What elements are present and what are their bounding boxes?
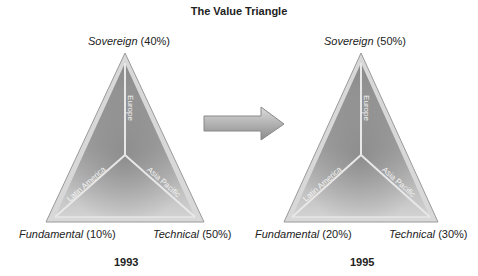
left-vertex-label-1993: Fundamental (10%) <box>19 228 116 240</box>
left-vertex-label-1995: Fundamental (20%) <box>255 228 352 240</box>
right-vertex-label-1993: Technical (50%) <box>153 228 231 240</box>
triangle-1993: Europe Latin America Asia Pacific <box>46 53 204 222</box>
transition-arrow-icon <box>204 107 284 140</box>
apex-label-1995: Sovereign (50%) <box>324 35 406 47</box>
arm-label-top: Europe <box>126 95 135 121</box>
right-vertex-label-1995: Technical (30%) <box>389 228 467 240</box>
year-label-1993: 1993 <box>114 256 138 268</box>
apex-label-1993: Sovereign (40%) <box>88 35 170 47</box>
triangle-1995: Europe Latin America Asia Pacific <box>284 53 438 222</box>
arm-label-top: Europe <box>362 95 371 121</box>
year-label-1995: 1995 <box>350 256 374 268</box>
